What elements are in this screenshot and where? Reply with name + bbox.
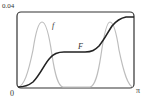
origin-label: 0	[10, 90, 14, 98]
y-tick-label-top: 0.04	[2, 2, 14, 10]
F-curve	[18, 17, 134, 87]
chart-canvas	[0, 0, 148, 100]
plot-frame	[17, 12, 134, 88]
x-tick-label-pi: π	[136, 87, 140, 95]
F-series-label: F	[78, 43, 83, 51]
f-series-label: f	[52, 22, 54, 30]
f-curve	[18, 22, 133, 87]
